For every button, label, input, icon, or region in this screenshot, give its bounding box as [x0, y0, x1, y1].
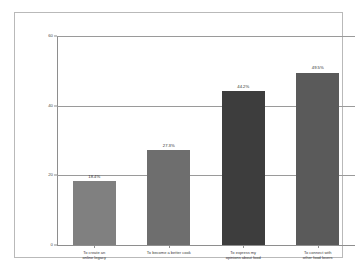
bar[interactable]: 27.3%To become a better cook: [147, 150, 190, 245]
bar-value-label: 49.5%: [312, 66, 324, 70]
bar-value-label: 27.3%: [163, 144, 175, 148]
y-axis-tick-mark: [54, 36, 57, 37]
bar[interactable]: 49.5%To connect withother food lovers: [296, 73, 339, 245]
bar[interactable]: 44.2%To express myopinions about food: [222, 91, 265, 245]
x-axis-category-label: To express myopinions about food: [212, 250, 274, 261]
plot-area: 0204060 18.4%To create anonline legacy27…: [57, 36, 355, 245]
x-axis-category-label: To connect withother food lovers: [287, 250, 349, 261]
y-axis-tick-label: 20: [48, 173, 53, 177]
y-axis-tick-label: 60: [48, 34, 53, 38]
y-axis-tick-label: 0: [51, 243, 53, 247]
y-axis-tick-label: 40: [48, 104, 53, 108]
bar-value-label: 44.2%: [237, 85, 249, 89]
x-axis-category-label: To become a better cook: [138, 250, 200, 255]
gridline: [57, 36, 355, 37]
x-axis-line: [57, 245, 355, 246]
y-axis-tick-mark: [54, 175, 57, 176]
bar-value-label: 18.4%: [88, 175, 100, 179]
chart-frame: 0204060 18.4%To create anonline legacy27…: [14, 12, 343, 258]
x-axis-tick-mark: [243, 245, 244, 248]
x-axis-tick-mark: [318, 245, 319, 248]
x-axis-category-label: To create anonline legacy: [63, 250, 125, 261]
x-axis-tick-mark: [94, 245, 95, 248]
chart-figure: 0204060 18.4%To create anonline legacy27…: [0, 0, 357, 278]
y-axis-tick-mark: [54, 245, 57, 246]
y-axis-tick-mark: [54, 105, 57, 106]
x-axis-tick-mark: [169, 245, 170, 248]
bar[interactable]: 18.4%To create anonline legacy: [73, 181, 116, 245]
